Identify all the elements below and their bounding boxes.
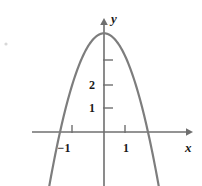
x-axis-arrowhead-icon: [186, 128, 193, 136]
scan-artifact-speck: [4, 42, 7, 45]
y-tick-label-two: 2: [89, 78, 95, 92]
y-tick-label-one: 1: [89, 101, 95, 115]
y-axis-group: y: [100, 11, 117, 186]
x-axis-label: x: [184, 140, 192, 155]
coordinate-plot-svg: x y −1 1 1 2: [0, 0, 202, 186]
tick-label-group: −1 1 1 2: [58, 78, 129, 155]
y-axis-arrowhead-icon: [100, 18, 108, 25]
y-axis-label: y: [109, 11, 117, 26]
graph-figure: x y −1 1 1 2: [0, 0, 202, 186]
x-tick-label-neg-one: −1: [58, 141, 71, 155]
x-tick-label-pos-one: 1: [123, 141, 129, 155]
